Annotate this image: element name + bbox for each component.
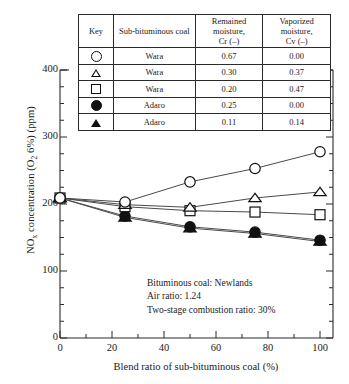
data-point-s1-p4: [314, 187, 326, 195]
data-point-s3-p2: [185, 222, 195, 232]
legend-header-coal: Sub-bituminous coal: [114, 15, 196, 48]
legend-header-cr-line1: Remained: [212, 16, 246, 26]
legend-row: Adaro0.110.14: [79, 114, 331, 131]
legend-header-cr-line3: Cr (–): [219, 36, 240, 46]
marker-square-open-icon: [91, 84, 102, 95]
data-point-s3-p3: [250, 227, 260, 237]
legend-row: Wara0.670.00: [79, 48, 331, 65]
data-point-s3-p1: [120, 211, 130, 221]
data-point-s0-p4: [315, 147, 325, 157]
legend-header-remained-moisture: Remained moisture, Cr (–): [195, 15, 263, 48]
data-point-s0-p1: [120, 197, 130, 207]
legend-cr-cell: 0.11: [195, 114, 263, 131]
legend-header-coal-text: Sub-bituminous coal: [119, 26, 190, 36]
marker-circle-filled-icon: [91, 100, 102, 111]
data-point-s3-p4: [315, 235, 325, 245]
legend-coal-cell: Wara: [114, 48, 196, 65]
legend-marker-cell: [79, 81, 114, 98]
legend-cv-cell: 0.00: [263, 97, 331, 114]
legend-header-cr-line2: moisture,: [213, 26, 245, 36]
legend-header-cv-line2: moisture,: [281, 26, 313, 36]
data-point-s0-p0: [55, 193, 65, 203]
figure-container: 400 300 200 100 0 0 20 40 60 80 100 NOx …: [0, 0, 349, 384]
legend-cv-cell: 0.37: [263, 64, 331, 81]
legend-header-vaporized-moisture: Vaporized moisture, Cv (–): [263, 15, 331, 48]
marker-triangle-open-icon: [91, 69, 101, 77]
legend-cr-cell: 0.30: [195, 64, 263, 81]
legend-header-cv-line3: Cv (–): [286, 36, 308, 46]
legend-cr-cell: 0.25: [195, 97, 263, 114]
data-point-s2-p4: [315, 210, 325, 220]
legend-row: Wara0.300.37: [79, 64, 331, 81]
legend-header-key: Key: [79, 15, 114, 48]
data-point-s0-p3: [250, 163, 260, 173]
legend-cr-cell: 0.67: [195, 48, 263, 65]
legend-coal-cell: Wara: [114, 81, 196, 98]
marker-circle-open-icon: [91, 51, 102, 62]
legend-coal-cell: Adaro: [114, 97, 196, 114]
legend-coal-cell: Wara: [114, 64, 196, 81]
legend-header-row: Key Sub-bituminous coal Remained moistur…: [79, 15, 331, 48]
data-point-s2-p3: [250, 207, 260, 217]
legend-cr-cell: 0.20: [195, 81, 263, 98]
legend-row: Adaro0.250.00: [79, 97, 331, 114]
data-point-s0-p2: [185, 177, 195, 187]
legend-marker-cell: [79, 48, 114, 65]
legend-body: Wara0.670.00Wara0.300.37Wara0.200.47Adar…: [79, 48, 331, 131]
legend-header-cv-line1: Vaporized: [279, 16, 313, 26]
legend-row: Wara0.200.47: [79, 81, 331, 98]
legend-marker-cell: [79, 97, 114, 114]
legend-cv-cell: 0.00: [263, 48, 331, 65]
legend-key-table: Key Sub-bituminous coal Remained moistur…: [78, 14, 331, 131]
legend-cv-cell: 0.47: [263, 81, 331, 98]
legend-marker-cell: [79, 114, 114, 131]
marker-triangle-filled-icon: [91, 119, 101, 127]
legend-marker-cell: [79, 64, 114, 81]
legend-cv-cell: 0.14: [263, 114, 331, 131]
legend-coal-cell: Adaro: [114, 114, 196, 131]
